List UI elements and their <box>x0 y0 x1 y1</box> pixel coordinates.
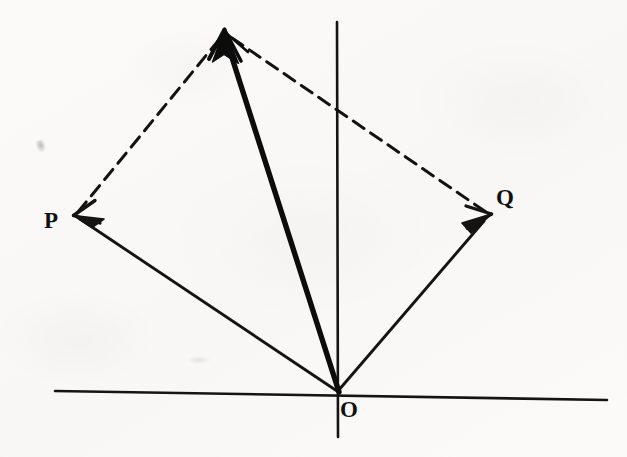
vector-p-group <box>74 201 338 392</box>
resultant-vector-arrowhead <box>209 29 248 64</box>
resultant-vector-shaft <box>227 42 339 392</box>
diagram-canvas: P Q O <box>0 0 627 457</box>
vector-p-label: P <box>44 209 58 232</box>
vector-p-arrowhead <box>74 201 105 228</box>
origin-label: O <box>340 398 358 421</box>
vector-q-group <box>338 206 492 391</box>
resultant-vector-group <box>209 29 339 392</box>
horizontal-axis <box>55 391 607 400</box>
vector-q-label: Q <box>496 186 514 209</box>
construction-lines-group <box>78 36 486 212</box>
vector-p-shaft <box>80 219 337 391</box>
vector-diagram <box>0 0 627 457</box>
vector-q-shaft <box>338 221 484 391</box>
vertical-axis <box>337 22 338 437</box>
dashed-line-resultant-to-q <box>232 38 486 212</box>
dashed-line-p-to-resultant <box>78 36 222 212</box>
